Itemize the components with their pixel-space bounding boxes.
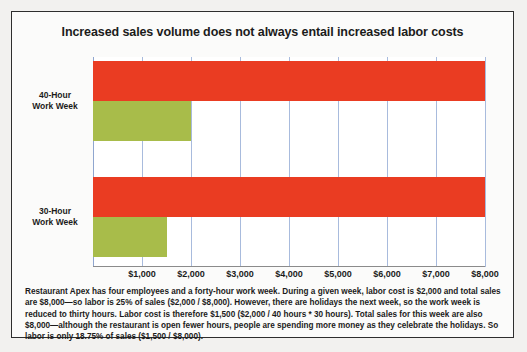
category-label-40-hour-work-week: 40-HourWork Week [17, 90, 93, 112]
category-label-30-hour-work-week: 30-HourWork Week [17, 206, 93, 228]
x-tick-label-6000: $6,000 [373, 269, 401, 279]
figure-frame: Increased sales volume does not always e… [11, 11, 514, 338]
x-tick-label-1000: $1,000 [128, 269, 156, 279]
x-tick-label-8000: $8,000 [471, 269, 499, 279]
chart-title: Increased sales volume does not always e… [12, 25, 513, 39]
x-tick-label-3000: $3,000 [226, 269, 254, 279]
plot-area [93, 57, 485, 267]
x-tick-label-2000: $2,000 [177, 269, 205, 279]
x-axis-tick-labels: $1,000$2,000$3,000$4,000$5,000$6,000$7,0… [93, 269, 485, 283]
chart-caption: Restaurant Apex has four employees and a… [25, 286, 502, 342]
category-axis-labels: 40-HourWork Week 30-HourWork Week [12, 57, 93, 267]
bar-30-hour-work-week-labor-cost [93, 217, 167, 257]
x-tick-label-5000: $5,000 [324, 269, 352, 279]
x-axis-line [93, 266, 485, 267]
gridline-8000 [485, 57, 486, 267]
x-tick-label-7000: $7,000 [422, 269, 450, 279]
bar-30-hour-work-week-total-sales [93, 177, 485, 217]
bar-40-hour-work-week-labor-cost [93, 101, 191, 141]
x-tick-label-4000: $4,000 [275, 269, 303, 279]
bar-40-hour-work-week-total-sales [93, 61, 485, 101]
